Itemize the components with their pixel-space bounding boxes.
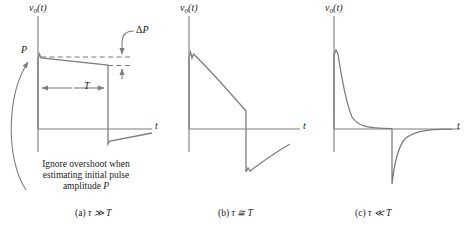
panel-c-graphics: [0, 0, 470, 229]
panel-c-positive-spike: [334, 50, 392, 129]
figure-waveform-comparison: vo(t) t P ΔP T Ignore overshoot when est…: [0, 0, 470, 229]
panel-c-caption: (c) τ ≪ T: [355, 209, 391, 219]
panel-c-negative-spike: [392, 129, 452, 184]
panel-c-x-axis-label: t: [457, 121, 460, 131]
panel-c-y-axis-label: vo(t): [325, 3, 343, 15]
